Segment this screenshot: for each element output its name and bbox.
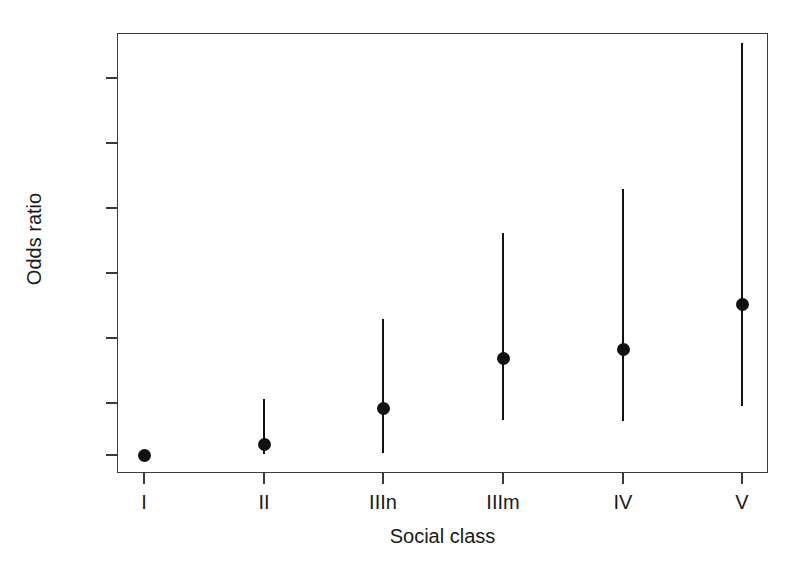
data-point-IIIm [497, 352, 510, 365]
error-bar-V [741, 43, 743, 406]
error-bar-IIIn [382, 319, 384, 454]
error-bar-IV [622, 189, 624, 422]
data-point-I [138, 449, 151, 462]
data-point-IIIn [377, 402, 390, 415]
data-point-V [736, 298, 749, 311]
data-layer [0, 0, 810, 574]
data-point-IV [617, 343, 630, 356]
error-bar-IIIm [502, 233, 504, 420]
figure-canvas: Odds ratio 1 5 10 15 20 25 30 [0, 0, 810, 574]
data-point-II [258, 438, 271, 451]
